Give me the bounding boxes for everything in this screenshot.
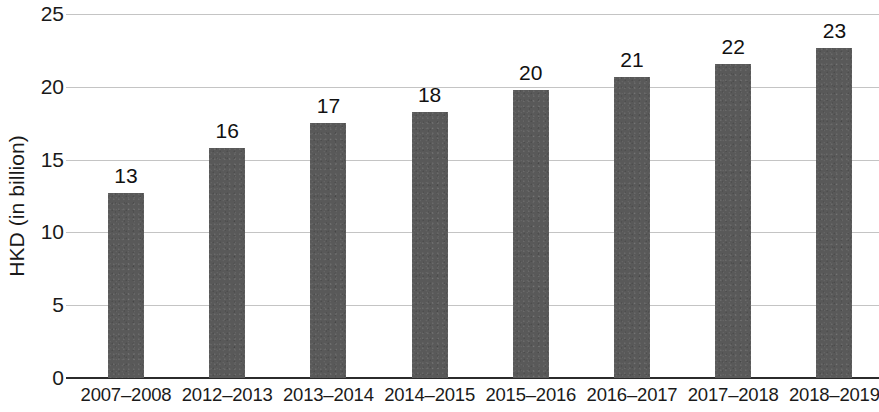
bar-value-label: 17 bbox=[317, 94, 340, 118]
x-axis-tick-label: 2017–2018 bbox=[688, 384, 779, 406]
plot-area: 1316171820212223 bbox=[76, 14, 879, 378]
bar: 20 bbox=[513, 90, 549, 378]
bar: 17 bbox=[310, 123, 346, 378]
x-axis-tick-label: 2013–2014 bbox=[283, 384, 374, 406]
gridline bbox=[66, 232, 879, 233]
x-axis-tick-label: 2016–2017 bbox=[587, 384, 678, 406]
bar: 13 bbox=[108, 193, 144, 378]
gridline bbox=[66, 14, 879, 15]
y-axis-tick-label: 10 bbox=[16, 220, 64, 244]
y-axis-tick-label: 0 bbox=[16, 366, 64, 390]
bar: 22 bbox=[715, 64, 751, 378]
bar: 23 bbox=[816, 48, 852, 379]
bar: 21 bbox=[614, 77, 650, 378]
bar-value-label: 16 bbox=[216, 119, 239, 143]
x-axis-line bbox=[66, 377, 879, 380]
bar-chart: HKD (in billion) 0510152025 131617182021… bbox=[0, 0, 879, 412]
bar-value-label: 22 bbox=[722, 35, 745, 59]
bar-value-label: 13 bbox=[114, 164, 137, 188]
gridline bbox=[66, 305, 879, 306]
bar-value-label: 20 bbox=[519, 61, 542, 85]
y-axis-tick-label: 25 bbox=[16, 2, 64, 26]
gridline bbox=[66, 160, 879, 161]
y-axis-tick-label: 5 bbox=[16, 293, 64, 317]
x-axis-tick-label: 2018–2019 bbox=[789, 384, 879, 406]
gridline bbox=[66, 87, 879, 88]
y-axis-title: HKD (in billion) bbox=[0, 0, 34, 412]
bar: 18 bbox=[412, 112, 448, 378]
y-axis-tick-label: 15 bbox=[16, 148, 64, 172]
bar-value-label: 23 bbox=[823, 19, 846, 43]
bar: 16 bbox=[209, 148, 245, 378]
bar-value-label: 21 bbox=[620, 48, 643, 72]
y-axis-tick-label: 20 bbox=[16, 75, 64, 99]
x-axis-tick-label: 2012–2013 bbox=[182, 384, 273, 406]
x-axis-tick-label: 2014–2015 bbox=[384, 384, 475, 406]
bar-value-label: 18 bbox=[418, 83, 441, 107]
x-axis-tick-label: 2015–2016 bbox=[485, 384, 576, 406]
x-axis-tick-label: 2007–2008 bbox=[81, 384, 172, 406]
